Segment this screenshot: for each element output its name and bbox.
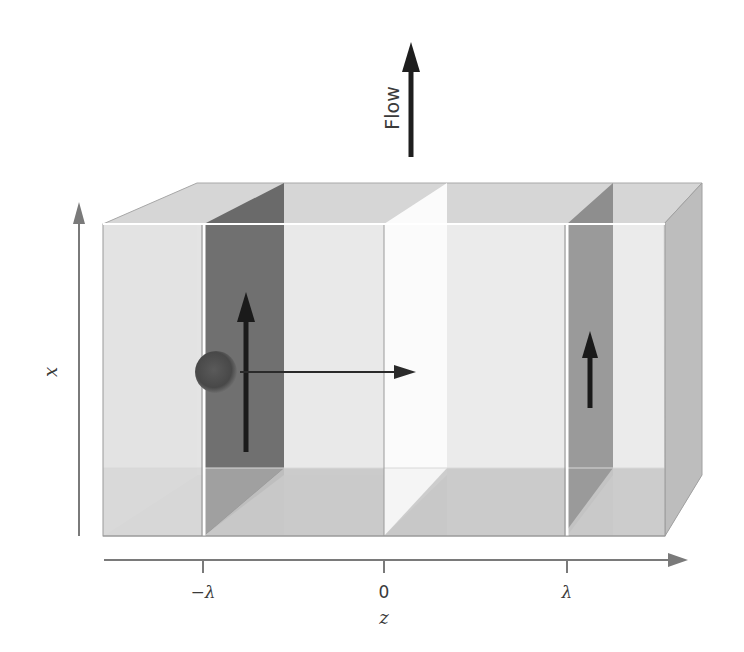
z-axis — [104, 553, 688, 573]
z-axis-label: z — [378, 607, 389, 628]
x-axis-label: x — [40, 367, 61, 377]
flow-arrow — [402, 42, 420, 157]
tick-label-zero: 0 — [379, 582, 390, 602]
particle-sphere — [195, 351, 237, 393]
x-axis — [73, 202, 85, 536]
box-right-face — [664, 183, 702, 536]
tick-label-minus-lambda: −λ — [190, 582, 215, 602]
diagram-canvas: Flow x −λ 0 λ z — [0, 0, 744, 652]
tick-label-lambda: λ — [561, 582, 573, 602]
flow-label: Flow — [381, 86, 403, 129]
